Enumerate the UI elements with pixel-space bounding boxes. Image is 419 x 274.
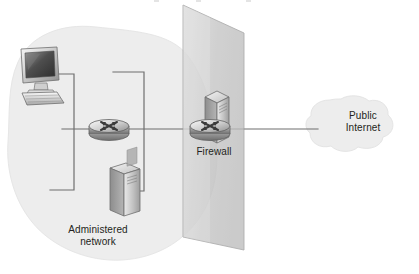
diagram-canvas: Administered network Firewall Public Int… [0, 0, 419, 274]
router-icon [89, 120, 129, 141]
administered-network-label: Administered network [38, 224, 158, 248]
firewall-router-icon [190, 120, 230, 141]
cropped-title-artifacts [154, 0, 251, 2]
desktop-computer-icon [21, 47, 64, 105]
firewall-label: Firewall [179, 146, 249, 158]
public-internet-label: Public Internet [323, 110, 403, 134]
